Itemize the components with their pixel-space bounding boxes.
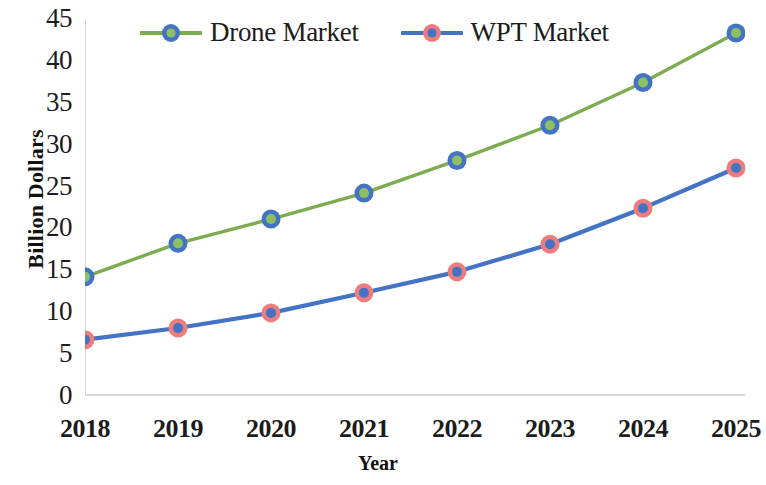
series-marker-core	[173, 323, 183, 333]
chart-legend: Drone MarketWPT Market	[140, 19, 609, 46]
y-axis-tick-label: 5	[28, 340, 72, 367]
series-marker-core	[731, 28, 741, 38]
series-marker-core	[731, 163, 741, 173]
legend-label: WPT Market	[471, 19, 609, 46]
series-line	[85, 168, 736, 340]
legend-marker-icon	[140, 21, 202, 45]
y-axis-tick-label: 15	[28, 256, 72, 283]
y-axis-tick-labels: 051015202530354045	[14, 0, 72, 485]
series-marker-core	[359, 188, 369, 198]
series-marker-core	[545, 239, 555, 249]
y-axis-tick-label: 0	[28, 382, 72, 409]
series-marker-core	[266, 308, 276, 318]
y-axis-tick-label: 40	[28, 47, 72, 74]
plot-svg	[85, 14, 745, 396]
legend-marker-icon	[401, 21, 463, 45]
series-marker-core	[638, 78, 648, 88]
y-axis-tick-label: 20	[28, 214, 72, 241]
x-axis-tick-label: 2025	[681, 416, 766, 442]
series-marker-core	[266, 214, 276, 224]
y-axis-tick-label: 10	[28, 298, 72, 325]
x-axis-title: Year	[0, 452, 756, 475]
series-marker-core	[638, 203, 648, 213]
series-marker-core	[452, 155, 462, 165]
y-axis-tick-label: 45	[28, 5, 72, 32]
series-marker-core	[173, 238, 183, 248]
y-axis-tick-label: 35	[28, 89, 72, 116]
x-axis-tick-labels: 20182019202020212022202320242025	[0, 416, 756, 450]
plot-area	[85, 14, 745, 396]
legend-entry: WPT Market	[401, 19, 609, 46]
legend-label: Drone Market	[210, 19, 359, 46]
series-marker-core	[452, 267, 462, 277]
y-axis-tick-label: 25	[28, 173, 72, 200]
y-axis-tick-label: 30	[28, 131, 72, 158]
series-marker-core	[545, 120, 555, 130]
legend-entry: Drone Market	[140, 19, 359, 46]
series-marker-core	[359, 288, 369, 298]
series-markers	[85, 24, 745, 350]
